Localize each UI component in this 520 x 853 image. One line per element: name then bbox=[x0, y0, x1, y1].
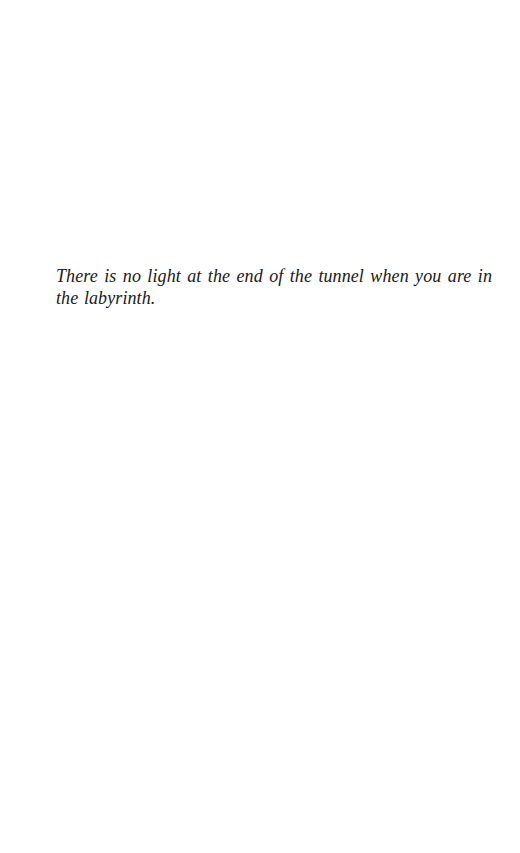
epigraph-text: There is no light at the end of the tunn… bbox=[56, 265, 492, 309]
book-page: There is no light at the end of the tunn… bbox=[0, 0, 520, 853]
